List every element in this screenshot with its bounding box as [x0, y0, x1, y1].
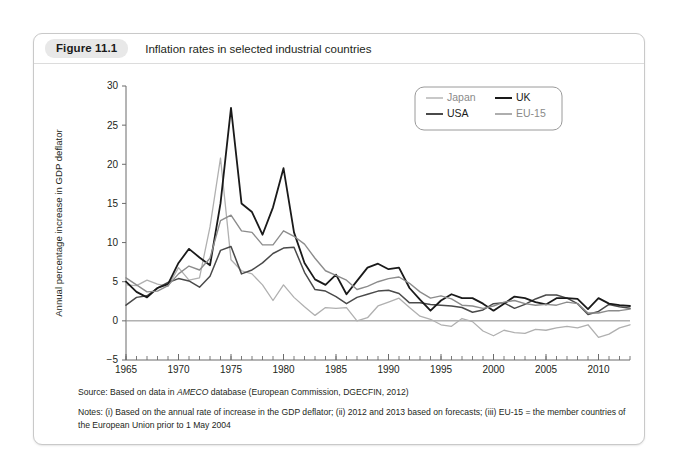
- source-suffix: database (European Commission, DGECFIN, …: [208, 387, 408, 397]
- svg-text:2000: 2000: [482, 364, 505, 375]
- svg-text:0: 0: [112, 315, 118, 326]
- svg-text:10: 10: [107, 237, 119, 248]
- svg-text:2005: 2005: [535, 364, 558, 375]
- svg-text:25: 25: [107, 120, 119, 131]
- series-line-uk: [126, 108, 630, 311]
- inflation-line-chart: Annual percentage increase in GDP deflat…: [34, 64, 646, 404]
- svg-text:Japan: Japan: [447, 91, 476, 103]
- svg-text:UK: UK: [516, 91, 531, 103]
- svg-text:1965: 1965: [115, 364, 138, 375]
- svg-text:30: 30: [107, 80, 119, 91]
- svg-text:1980: 1980: [272, 364, 295, 375]
- svg-text:15: 15: [107, 198, 119, 209]
- source-database-name: AMECO: [177, 387, 209, 397]
- source-prefix: Source: Based on data in: [78, 387, 177, 397]
- svg-text:1970: 1970: [167, 364, 190, 375]
- figure-footer: Source: Based on data in AMECO database …: [34, 386, 646, 431]
- y-axis: −5051015202530: [107, 80, 126, 365]
- series-line-japan: [126, 158, 630, 337]
- svg-text:2010: 2010: [587, 364, 610, 375]
- svg-text:5: 5: [112, 276, 118, 287]
- svg-text:Annual percentage increase in: Annual percentage increase in GDP deflat…: [53, 128, 64, 316]
- figure-number-badge: Figure 11.1: [45, 39, 128, 58]
- figure-notes: Notes: (i) Based on the annual rate of i…: [78, 406, 628, 431]
- chart-legend: JapanUKUSAEU-15: [415, 87, 562, 130]
- data-series-lines: [126, 108, 630, 337]
- x-axis: 1965197019751980198519901995200020052010: [115, 354, 630, 375]
- figure-card: Figure 11.1 Inflation rates in selected …: [33, 33, 645, 445]
- figure-header: Figure 11.1 Inflation rates in selected …: [34, 34, 644, 64]
- svg-text:20: 20: [107, 159, 119, 170]
- svg-text:EU-15: EU-15: [516, 107, 546, 119]
- svg-text:1985: 1985: [325, 364, 348, 375]
- figure-title: Inflation rates in selected industrial c…: [145, 43, 371, 55]
- y-axis-title: Annual percentage increase in GDP deflat…: [53, 128, 64, 316]
- source-note: Source: Based on data in AMECO database …: [78, 386, 628, 398]
- chart-plot-area: Annual percentage increase in GDP deflat…: [34, 64, 646, 404]
- svg-text:1990: 1990: [377, 364, 400, 375]
- svg-text:USA: USA: [447, 107, 469, 119]
- svg-text:1995: 1995: [430, 364, 453, 375]
- svg-text:1975: 1975: [220, 364, 243, 375]
